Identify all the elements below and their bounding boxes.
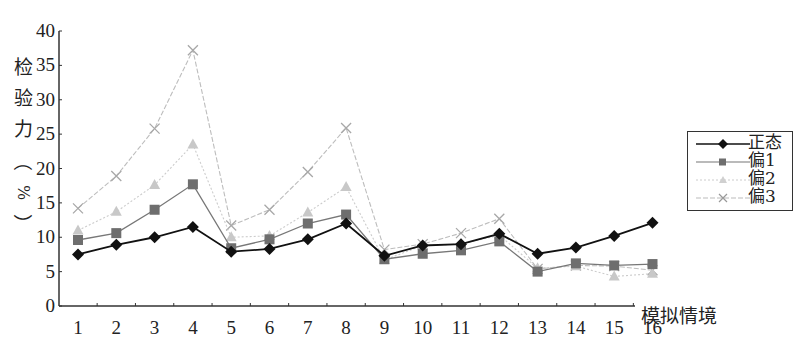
y-axis-ticks: 0510152025303540 bbox=[36, 20, 62, 316]
x-tick-label: 8 bbox=[341, 317, 351, 338]
legend-square-icon bbox=[696, 154, 752, 170]
data-point bbox=[265, 234, 275, 244]
x-tick-label: 14 bbox=[566, 317, 586, 338]
y-tick-label: 5 bbox=[46, 261, 56, 282]
data-point bbox=[570, 242, 582, 254]
legend-label: 偏3 bbox=[748, 188, 776, 205]
y-tick-label: 20 bbox=[36, 158, 55, 179]
data-point bbox=[150, 205, 160, 215]
x-tick-label: 7 bbox=[303, 317, 313, 338]
legend-item-skew1: 偏1 bbox=[688, 154, 792, 170]
legend-diamond-icon bbox=[696, 136, 752, 152]
x-tick-label: 9 bbox=[380, 317, 390, 338]
series-square bbox=[73, 179, 658, 276]
data-point bbox=[647, 217, 659, 229]
data-point bbox=[265, 205, 275, 215]
legend-label: 偏2 bbox=[748, 170, 776, 187]
y-tick-label: 10 bbox=[36, 226, 55, 247]
data-point bbox=[111, 228, 121, 238]
legend-triangle-icon bbox=[696, 172, 752, 188]
data-point bbox=[226, 231, 237, 241]
x-tick-label: 12 bbox=[490, 317, 509, 338]
data-point bbox=[532, 248, 544, 260]
y-label-char: % bbox=[14, 185, 33, 200]
data-point bbox=[149, 231, 161, 243]
series-diamond bbox=[72, 217, 659, 262]
data-point bbox=[73, 203, 83, 213]
legend-item-skew3: 偏3 bbox=[688, 190, 792, 206]
data-point bbox=[533, 267, 543, 277]
data-point bbox=[609, 260, 619, 270]
y-tick-label: 25 bbox=[36, 123, 55, 144]
data-point bbox=[571, 258, 581, 268]
axes bbox=[59, 31, 635, 306]
y-tick-label: 40 bbox=[36, 20, 55, 41]
y-label-char: 验 bbox=[14, 89, 33, 108]
legend-item-normal: 正态 bbox=[688, 136, 792, 152]
data-point bbox=[187, 221, 199, 233]
data-point bbox=[303, 167, 313, 177]
data-point bbox=[494, 214, 504, 224]
series-group bbox=[72, 45, 659, 280]
data-point bbox=[111, 171, 121, 181]
data-point bbox=[188, 179, 198, 189]
y-tick-label: 35 bbox=[36, 54, 55, 75]
data-point bbox=[302, 207, 313, 217]
x-tick-label: 1 bbox=[73, 317, 83, 338]
x-axis-ticks: 12345678910111213141516 bbox=[73, 303, 662, 338]
data-point bbox=[110, 239, 122, 251]
data-point bbox=[341, 181, 352, 191]
x-axis-label: 模拟情境 bbox=[641, 301, 717, 328]
x-tick-label: 11 bbox=[452, 317, 470, 338]
data-point bbox=[73, 224, 84, 234]
legend: 正态 偏1 偏2 偏3 bbox=[687, 131, 793, 211]
x-tick-label: 13 bbox=[528, 317, 547, 338]
y-tick-label: 30 bbox=[36, 89, 55, 110]
data-point bbox=[188, 45, 198, 55]
x-tick-label: 6 bbox=[265, 317, 275, 338]
x-tick-label: 10 bbox=[413, 317, 432, 338]
legend-label: 偏1 bbox=[748, 152, 776, 169]
x-tick-label: 3 bbox=[150, 317, 160, 338]
data-point bbox=[187, 138, 198, 148]
data-point bbox=[264, 243, 276, 255]
data-point bbox=[72, 248, 84, 260]
x-tick-label: 2 bbox=[112, 317, 122, 338]
y-label-char: （ bbox=[12, 152, 31, 171]
data-point bbox=[149, 179, 160, 189]
data-point bbox=[111, 206, 122, 216]
legend-cross-icon bbox=[696, 190, 752, 206]
data-point bbox=[647, 268, 658, 278]
y-label-char: 检 bbox=[14, 58, 33, 77]
data-point bbox=[302, 233, 314, 245]
x-tick-label: 5 bbox=[226, 317, 236, 338]
data-point bbox=[608, 230, 620, 242]
series-triangle bbox=[73, 138, 659, 280]
data-point bbox=[341, 123, 351, 133]
legend-item-skew2: 偏2 bbox=[688, 172, 792, 188]
data-point bbox=[456, 228, 466, 238]
data-point bbox=[303, 219, 313, 229]
x-tick-label: 4 bbox=[188, 317, 198, 338]
y-label-char: ） bbox=[12, 214, 31, 233]
data-point bbox=[73, 235, 83, 245]
x-tick-label: 15 bbox=[605, 317, 624, 338]
legend-label: 正态 bbox=[748, 134, 782, 151]
y-tick-label: 15 bbox=[36, 192, 55, 213]
data-point bbox=[150, 124, 160, 134]
y-label-char: 力 bbox=[14, 120, 33, 139]
data-point bbox=[648, 259, 658, 269]
y-tick-label: 0 bbox=[46, 295, 56, 316]
